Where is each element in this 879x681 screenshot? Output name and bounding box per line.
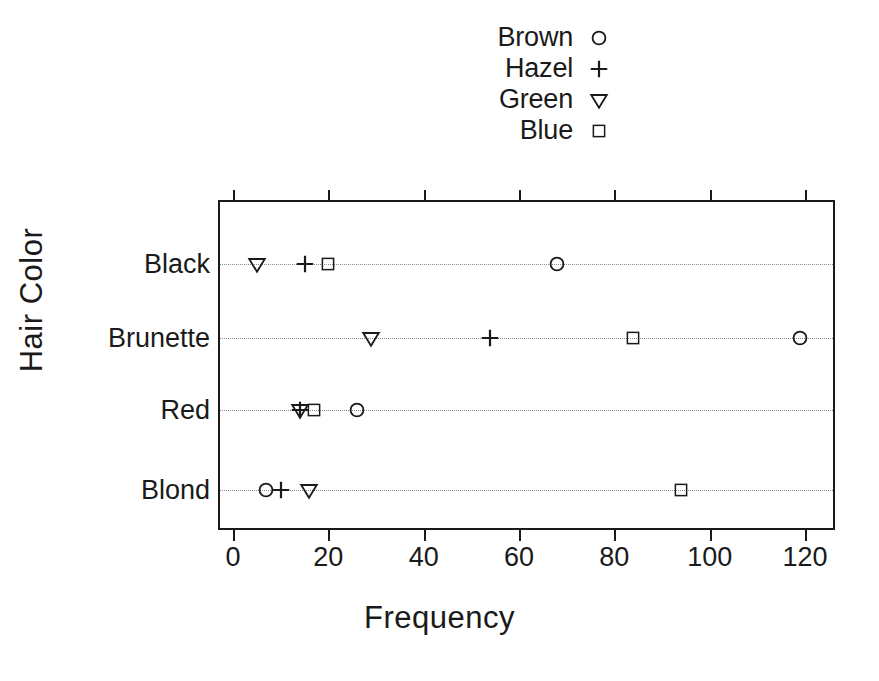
x-tick-bottom-100 — [710, 528, 712, 541]
circle-marker-icon — [573, 22, 625, 53]
x-tick-top-80 — [614, 190, 616, 202]
x-tick-bottom-80 — [614, 528, 616, 541]
x-tick-label-100: 100 — [687, 542, 732, 572]
x-tick-label-20: 20 — [313, 542, 343, 572]
x-tick-top-60 — [519, 190, 521, 202]
x-tick-bottom-120 — [805, 528, 807, 541]
data-point-green-brunette — [358, 325, 384, 351]
data-point-brown-red — [344, 397, 370, 423]
x-tick-bottom-20 — [328, 528, 330, 541]
data-point-hazel-blond — [268, 477, 294, 503]
legend-item-brown[interactable]: Brown — [455, 22, 635, 53]
x-tick-top-100 — [710, 190, 712, 202]
x-tick-label-120: 120 — [782, 542, 827, 572]
data-point-blue-red — [301, 397, 327, 423]
data-point-green-blond — [296, 477, 322, 503]
y-axis-title: Hair Color — [14, 100, 50, 500]
data-point-brown-black — [544, 251, 570, 277]
legend-item-blue[interactable]: Blue — [455, 115, 635, 146]
x-tick-bottom-60 — [519, 528, 521, 541]
plot-area: BlackBrunetteRedBlond020406080100120 — [218, 200, 835, 530]
legend-item-green[interactable]: Green — [455, 84, 635, 115]
data-point-hazel-black — [292, 251, 318, 277]
triangle-down-marker-icon — [573, 84, 625, 115]
x-tick-bottom-40 — [424, 528, 426, 541]
x-tick-label-40: 40 — [409, 542, 439, 572]
x-tick-top-20 — [328, 190, 330, 202]
x-tick-top-40 — [424, 190, 426, 202]
legend-label: Blue — [455, 115, 573, 146]
x-tick-top-0 — [233, 190, 235, 202]
grid-line-brunette — [220, 338, 833, 339]
legend-label: Green — [455, 84, 573, 115]
legend-label: Brown — [455, 22, 573, 53]
data-point-hazel-brunette — [477, 325, 503, 351]
legend: BrownHazelGreenBlue — [455, 22, 635, 146]
x-tick-label-80: 80 — [599, 542, 629, 572]
x-tick-bottom-0 — [233, 528, 235, 541]
data-point-green-black — [244, 251, 270, 277]
square-marker-icon — [573, 115, 625, 146]
data-point-blue-black — [315, 251, 341, 277]
x-axis-title: Frequency — [0, 600, 879, 636]
x-tick-label-60: 60 — [504, 542, 534, 572]
plus-marker-icon — [573, 53, 625, 84]
x-tick-top-120 — [805, 190, 807, 202]
data-point-brown-brunette — [787, 325, 813, 351]
legend-item-hazel[interactable]: Hazel — [455, 53, 635, 84]
data-point-blue-brunette — [620, 325, 646, 351]
data-point-blue-blond — [668, 477, 694, 503]
legend-label: Hazel — [455, 53, 573, 84]
x-tick-label-0: 0 — [225, 542, 240, 572]
dot-plot-chart: BrownHazelGreenBlue BlackBrunetteRedBlon… — [0, 0, 879, 681]
